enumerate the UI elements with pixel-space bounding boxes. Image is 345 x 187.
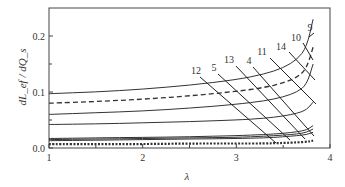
curve-label-14: 14 (276, 41, 286, 52)
plot-border (49, 8, 330, 148)
y-tick-label: 0.2 (33, 31, 46, 42)
curve-label-13: 13 (224, 54, 234, 65)
leader-line-5 (218, 74, 290, 140)
leader-line-11 (270, 58, 316, 104)
curve-labels: 1251341114109 (191, 22, 313, 76)
x-axis-label: λ (184, 170, 190, 182)
curve-10 (49, 47, 313, 103)
x-tick-label: 3 (234, 152, 239, 163)
curve-label-10: 10 (291, 32, 301, 43)
curve-label-9: 9 (308, 22, 313, 33)
curve-label-11: 11 (257, 46, 267, 57)
x-tick-label: 2 (140, 152, 145, 163)
x-tick-label: 4 (328, 152, 333, 163)
y-tick-label: 0.0 (33, 143, 46, 154)
x-tick-label: 1 (47, 152, 52, 163)
chart: 12340.00.10.2 1251341114109 λ (0, 0, 345, 187)
y-axis-label: dL_ef / dQ_s (16, 49, 28, 106)
plot-frame (49, 8, 330, 148)
curve-4 (49, 126, 313, 139)
curve-label-4: 4 (247, 55, 252, 66)
curve-9 (49, 19, 313, 94)
leader-line-13 (236, 66, 305, 139)
y-axis-label-container: dL_ef / dQ_s (2, 54, 42, 100)
curve-label-12: 12 (191, 65, 201, 76)
curve-label-5: 5 (212, 62, 217, 73)
